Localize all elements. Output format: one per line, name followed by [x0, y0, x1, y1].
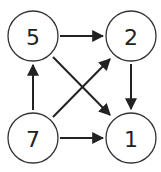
- edge-5-to-1: [53, 57, 110, 115]
- node-label: 7: [26, 127, 40, 152]
- node-5: 5: [8, 11, 58, 61]
- node-label: 2: [124, 25, 138, 50]
- node-label: 1: [124, 127, 138, 152]
- node-2: 2: [106, 11, 156, 61]
- edge-7-to-2: [53, 59, 110, 117]
- node-7: 7: [8, 113, 58, 163]
- node-1: 1: [106, 113, 156, 163]
- graph-canvas: 5 2 7 1: [0, 0, 161, 172]
- node-label: 5: [26, 25, 40, 50]
